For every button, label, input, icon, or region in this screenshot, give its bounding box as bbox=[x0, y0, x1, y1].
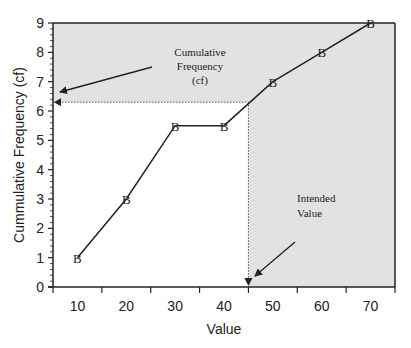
annotation-iv-line2: Value bbox=[297, 207, 322, 219]
x-tick-label: 20 bbox=[118, 298, 134, 314]
cumulative-frequency-chart: 012345678910203040506070ValueCummulative… bbox=[0, 0, 411, 348]
x-tick-label: 10 bbox=[70, 298, 86, 314]
data-point-marker: B bbox=[171, 119, 180, 134]
x-tick-label: 70 bbox=[363, 298, 379, 314]
y-axis-title: Cummulative Frequency (cf) bbox=[11, 67, 27, 243]
annotation-cf-line3: (cf) bbox=[192, 74, 208, 87]
data-point-marker: B bbox=[220, 119, 229, 134]
data-point-marker: B bbox=[317, 45, 326, 60]
y-tick-label: 9 bbox=[36, 15, 44, 31]
y-tick-label: 3 bbox=[36, 191, 44, 207]
x-axis-title: Value bbox=[207, 321, 242, 337]
shaded-region bbox=[53, 23, 395, 287]
annotation-cf-line1: Cumulative bbox=[174, 46, 225, 58]
x-tick-label: 60 bbox=[314, 298, 330, 314]
y-tick-label: 5 bbox=[36, 132, 44, 148]
data-point-marker: B bbox=[122, 192, 131, 207]
annotation-iv-line1: Intended bbox=[297, 192, 336, 204]
y-tick-label: 4 bbox=[36, 162, 44, 178]
y-tick-label: 2 bbox=[36, 220, 44, 236]
data-point-marker: B bbox=[269, 75, 278, 90]
x-tick-label: 30 bbox=[167, 298, 183, 314]
data-point-marker: B bbox=[73, 251, 82, 266]
x-tick-label: 40 bbox=[216, 298, 232, 314]
x-tick-label: 50 bbox=[265, 298, 281, 314]
y-tick-label: 8 bbox=[36, 44, 44, 60]
y-tick-label: 0 bbox=[36, 279, 44, 295]
y-tick-label: 7 bbox=[36, 74, 44, 90]
y-tick-label: 1 bbox=[36, 250, 44, 266]
data-point-marker: B bbox=[366, 16, 375, 31]
annotation-cf-line2: Frequency bbox=[177, 60, 224, 72]
y-tick-label: 6 bbox=[36, 103, 44, 119]
